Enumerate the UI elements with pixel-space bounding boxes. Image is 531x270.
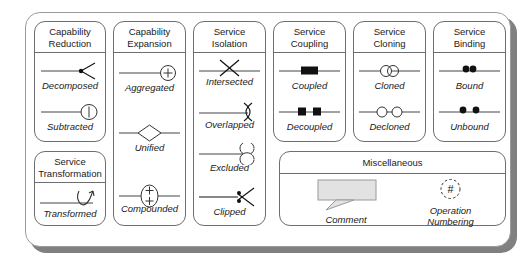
legend-label: Clipped xyxy=(194,206,265,218)
subtracted-symbol xyxy=(35,102,105,122)
legend-label: Intersected xyxy=(194,76,265,88)
legend-entry-compounded: Compounded xyxy=(114,154,185,215)
legend-entry-decoupled: Decoupled xyxy=(274,92,345,133)
legend-entry-intersected: Intersected xyxy=(194,53,265,88)
panel-title: Service Transformation xyxy=(35,152,105,183)
legend-entry-aggregated: Aggregated xyxy=(114,53,185,94)
legend-label: Subtracted xyxy=(35,121,105,133)
panel-title: Capability Expansion xyxy=(114,22,185,53)
bound-symbol xyxy=(434,61,505,81)
legend-label: Aggregated xyxy=(114,82,185,94)
panel-capability-expansion: Capability Expansion Aggregated xyxy=(113,21,186,226)
panel-title: Service Cloning xyxy=(354,22,425,53)
transformed-symbol xyxy=(35,189,105,209)
legend-label: Decomposed xyxy=(35,80,105,92)
panel-title: Miscellaneous xyxy=(280,152,505,174)
legend-label: Decoupled xyxy=(274,121,345,133)
panel-miscellaneous: Miscellaneous Comment # Ope xyxy=(279,151,506,226)
overlapped-symbol xyxy=(194,100,265,120)
panel-title: Service Isolation xyxy=(194,22,265,53)
legend-label: Unified xyxy=(114,142,185,154)
legend-entry-bound: Bound xyxy=(434,53,505,92)
panel-body: Aggregated Unified xyxy=(114,53,185,226)
unbound-symbol xyxy=(434,102,505,122)
legend-entry-cloned: Cloned xyxy=(354,53,425,92)
panel-capability-reduction: Capability Reduction Decomposed xyxy=(34,21,106,142)
legend-label: Unbound xyxy=(434,121,505,133)
decloned-symbol xyxy=(354,102,425,122)
panel-body: Decomposed Subtracted xyxy=(35,53,105,142)
legend-label: Decloned xyxy=(354,121,425,133)
panel-title: Service Coupling xyxy=(274,22,345,53)
legend-label: Operation Numbering xyxy=(403,205,498,227)
panel-service-cloning: Service Cloning Cloned xyxy=(353,21,426,142)
panel-title: Capability Reduction xyxy=(35,22,105,53)
operation-numbering-symbol: # xyxy=(403,177,498,205)
legend-label: Cloned xyxy=(354,80,425,92)
diagram-canvas: Capability Reduction Decomposed xyxy=(0,0,531,270)
legend-entry-transformed: Transformed xyxy=(35,183,105,220)
legend-label: Comment xyxy=(296,214,396,225)
legend-entry-comment: Comment xyxy=(296,178,396,225)
panel-service-coupling: Service Coupling Coupled xyxy=(273,21,346,142)
legend-entry-decloned: Decloned xyxy=(354,92,425,133)
compounded-symbol xyxy=(114,184,185,204)
panel-body: Transformed xyxy=(35,183,105,226)
decoupled-symbol xyxy=(274,102,345,122)
panel-body: Comment # Operation Numbering xyxy=(280,174,505,227)
panel-service-transformation: Service Transformation Transformed xyxy=(34,151,106,226)
panel-body: Intersected Overlapped xyxy=(194,53,265,226)
legend-entry-operation-numbering: # Operation Numbering xyxy=(403,177,498,227)
panel-body: Coupled Decoupled xyxy=(274,53,345,142)
panel-service-binding: Service Binding Bound xyxy=(433,21,506,142)
legend-label: Coupled xyxy=(274,80,345,92)
cloned-symbol xyxy=(354,61,425,81)
coupled-symbol xyxy=(274,61,345,81)
panel-body: Bound Unbound xyxy=(434,53,505,142)
aggregated-symbol xyxy=(114,63,185,83)
legend-entry-decomposed: Decomposed xyxy=(35,53,105,92)
clipped-symbol xyxy=(194,187,265,207)
legend-entry-overlapped: Overlapped xyxy=(194,88,265,131)
legend-entry-excluded: Excluded xyxy=(194,131,265,174)
legend-entry-clipped: Clipped xyxy=(194,174,265,218)
decomposed-symbol xyxy=(35,61,105,81)
legend-entry-unbound: Unbound xyxy=(434,92,505,133)
intersected-symbol xyxy=(194,57,265,77)
panel-title: Service Binding xyxy=(434,22,505,53)
legend-entry-coupled: Coupled xyxy=(274,53,345,92)
svg-text:#: # xyxy=(447,183,454,195)
legend-entry-unified: Unified xyxy=(114,94,185,154)
panel-service-isolation: Service Isolation Intersected xyxy=(193,21,266,226)
excluded-symbol xyxy=(194,143,265,163)
panel-body: Cloned Decloned xyxy=(354,53,425,142)
comment-bubble-symbol xyxy=(296,178,396,215)
unified-symbol xyxy=(114,123,185,143)
legend-entry-subtracted: Subtracted xyxy=(35,92,105,133)
legend-label: Bound xyxy=(434,80,505,92)
